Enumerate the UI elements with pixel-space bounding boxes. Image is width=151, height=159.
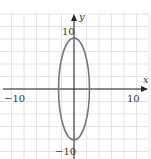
y-axis-label: y [78, 11, 85, 22]
y-tick-10: 10 [62, 26, 75, 37]
x-tick-10: 10 [127, 93, 140, 104]
x-axis-arrow-icon [141, 86, 148, 92]
y-axis-arrow-icon [71, 14, 77, 21]
x-tick-neg10: −10 [4, 93, 25, 104]
x-axis-label: x [143, 74, 149, 85]
y-tick-neg10: −10 [55, 146, 76, 157]
ellipse-graph: x y −10 10 10 −10 [0, 0, 151, 159]
